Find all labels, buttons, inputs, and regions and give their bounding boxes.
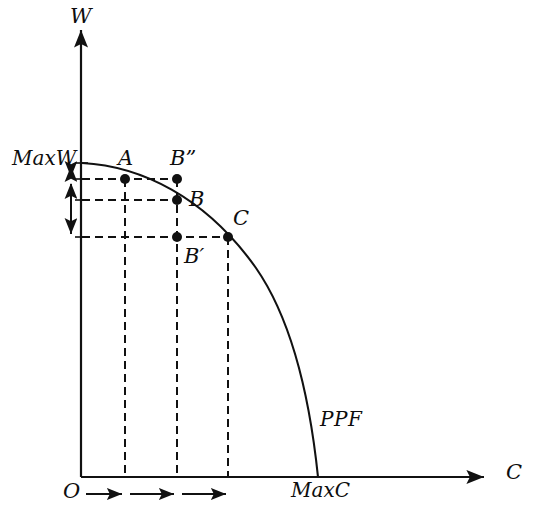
- point-marker-b-double-prime[interactable]: [172, 174, 182, 184]
- ppf-figure: W C O MaxW MaxC PPF A B” B B′ C: [0, 0, 537, 524]
- point-marker-a[interactable]: [120, 174, 130, 184]
- point-label-a: A: [118, 148, 133, 169]
- point-marker-b-prime[interactable]: [172, 232, 182, 242]
- ppf-curve-label: PPF: [320, 409, 362, 429]
- point-label-b: B: [189, 189, 204, 210]
- point-marker-b[interactable]: [172, 195, 182, 205]
- point-marker-c[interactable]: [223, 232, 233, 242]
- point-label-c: C: [233, 208, 249, 229]
- max-w-label: MaxW: [12, 148, 76, 168]
- point-label-b-double-prime: B”: [170, 148, 196, 169]
- ppf-diagram-svg: [0, 0, 537, 524]
- max-c-label: MaxC: [291, 480, 350, 500]
- origin-label: O: [63, 481, 80, 502]
- c-axis-label: C: [506, 462, 522, 483]
- point-label-b-prime: B′: [184, 246, 204, 267]
- w-axis-label: W: [70, 6, 92, 27]
